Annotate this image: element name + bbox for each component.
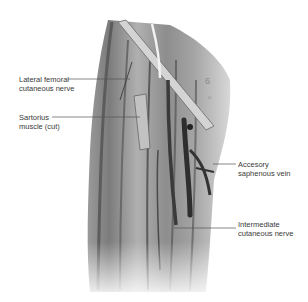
label-line1: Lateral femoral xyxy=(19,75,74,84)
label-line1: Accesory xyxy=(238,160,291,169)
label-line2: cutaneous nerve xyxy=(238,229,293,238)
label-line2: cutaneous nerve xyxy=(19,84,74,93)
label-sartorius-muscle: Sartorius muscle (cut) xyxy=(19,113,60,131)
label-line1: Sartorius xyxy=(19,113,60,122)
label-line2: muscle (cut) xyxy=(19,122,60,131)
label-line2: saphenous vein xyxy=(238,169,291,178)
label-accessory-saphenous-vein: Accesory saphenous vein xyxy=(238,160,291,178)
label-lateral-femoral-cutaneous-nerve: Lateral femoral cutaneous nerve xyxy=(19,75,74,93)
thigh-anatomy-illustration: 6 o xyxy=(0,0,308,302)
label-line1: Intermediate xyxy=(238,220,293,229)
label-intermediate-cutaneous-nerve: Intermediate cutaneous nerve xyxy=(238,220,293,238)
